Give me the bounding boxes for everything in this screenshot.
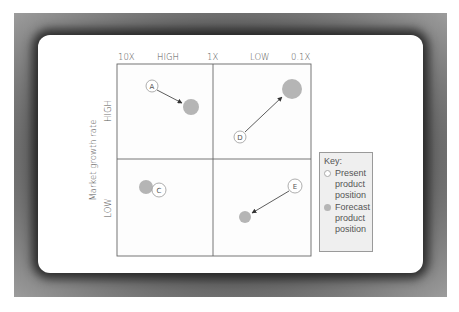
legend-label-forecast: Forecast product position <box>335 202 370 234</box>
x-tick-high: HIGH <box>157 52 179 62</box>
label-c: C <box>157 187 162 195</box>
forecast-circle-c <box>139 180 153 194</box>
label-a: A <box>150 83 155 91</box>
growth-share-matrix: 10X HIGH 1X LOW 0.1X Market growth rate … <box>0 0 459 312</box>
legend-title: Key: <box>324 156 369 167</box>
x-tick-low: LOW <box>250 52 270 62</box>
legend-item-forecast: Forecast product position <box>324 202 369 235</box>
filled-circle-icon <box>324 204 331 211</box>
x-tick-10x: 10X <box>118 52 135 62</box>
x-tick-0-1x: 0.1X <box>291 52 311 62</box>
forecast-circle-d <box>282 79 302 99</box>
legend-key: Key: Present product position Forecast p… <box>319 152 373 252</box>
legend-label-present: Present product position <box>335 168 366 200</box>
open-circle-icon <box>324 170 331 177</box>
matrix-grid <box>117 64 311 256</box>
forecast-circle-e <box>239 211 251 223</box>
forecast-circle-a <box>183 99 199 115</box>
y-axis-title: Market growth rate <box>88 119 98 200</box>
label-e: E <box>293 183 297 191</box>
legend-item-present: Present product position <box>324 168 369 201</box>
y-tick-high: HIGH <box>103 100 113 122</box>
label-d: D <box>237 134 242 142</box>
x-tick-1x: 1X <box>207 52 218 62</box>
y-tick-low: LOW <box>103 198 113 218</box>
